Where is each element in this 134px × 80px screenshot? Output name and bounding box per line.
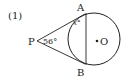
angle-x-label: x° xyxy=(73,19,80,27)
label-a: A xyxy=(76,2,85,13)
label-p: P xyxy=(28,36,35,47)
tangent-circle-diagram: (1) P A B O 56° x° xyxy=(0,0,134,80)
label-b: B xyxy=(77,67,84,78)
center-dot xyxy=(96,40,99,43)
angle-p-label: 56° xyxy=(43,37,57,46)
problem-number: (1) xyxy=(8,10,22,21)
label-o: O xyxy=(100,36,108,47)
